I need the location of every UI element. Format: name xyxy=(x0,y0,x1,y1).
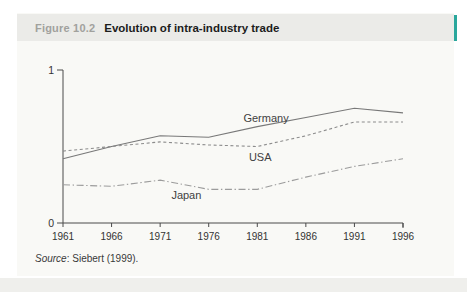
y-tick-label: 0 xyxy=(48,217,54,229)
source-note: Source: Siebert (1999). xyxy=(35,253,138,264)
x-tick-label: 1971 xyxy=(149,231,172,242)
bottom-strip xyxy=(0,278,467,292)
source-text: : Siebert (1999). xyxy=(67,253,139,264)
x-tick-label: 1981 xyxy=(246,231,269,242)
x-tick-label: 1986 xyxy=(295,231,318,242)
x-tick-label: 1966 xyxy=(100,231,123,242)
x-tick-label: 1991 xyxy=(343,231,366,242)
japan-series-label: Japan xyxy=(171,189,201,201)
y-tick-label: 1 xyxy=(48,64,54,76)
usa-line xyxy=(63,122,403,151)
germany-line xyxy=(63,108,403,158)
figure-page: Figure 10.2 Evolution of intra-industry … xyxy=(0,0,467,292)
source-label: Source xyxy=(35,253,67,264)
usa-series-label: USA xyxy=(249,151,272,163)
x-tick-label: 1976 xyxy=(198,231,221,242)
x-tick-label: 1961 xyxy=(52,231,75,242)
x-tick-label: 1996 xyxy=(392,231,415,242)
axes xyxy=(57,70,403,228)
japan-line xyxy=(63,159,403,190)
germany-series-label: Germany xyxy=(243,112,289,124)
intra-industry-trade-chart: 0119611966197119761981198619911996German… xyxy=(0,0,467,292)
